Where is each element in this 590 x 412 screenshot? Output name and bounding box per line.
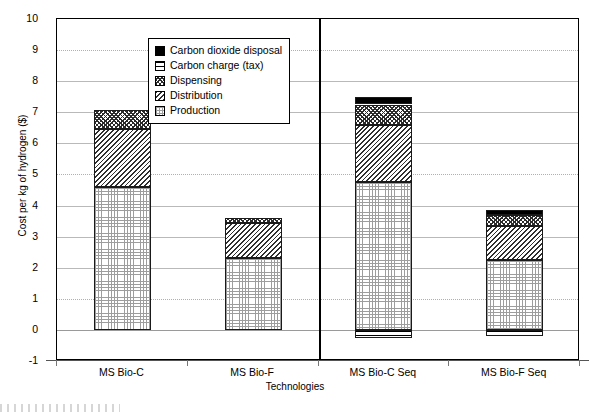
legend-label: Dispensing (170, 75, 222, 86)
x-tick-label: MS Bio-F Seq (444, 366, 584, 378)
y-axis-tick-labels: 109876543210-1 (8, 0, 38, 412)
bar-segment (94, 129, 151, 187)
bar-segment (486, 260, 543, 330)
y-tick-label: 3 (12, 231, 38, 241)
legend-swatch (155, 76, 165, 86)
bar-group (94, 19, 151, 359)
legend-item: Carbon dioxide disposal (155, 43, 282, 58)
y-tick-label: 2 (12, 262, 38, 272)
legend-swatch (155, 61, 165, 71)
legend-swatch (155, 91, 165, 101)
y-tick-label: 9 (12, 44, 38, 54)
bar-segment (355, 182, 412, 330)
legend-item: Distribution (155, 88, 282, 103)
bar-segment (486, 210, 543, 215)
stacked-bar-chart: Cost per kg of hydrogen ($) 109876543210… (0, 0, 590, 412)
bar-segment (486, 215, 543, 226)
bar-segment (225, 258, 282, 330)
y-tick-label: 5 (12, 168, 38, 178)
bar-segment (355, 125, 412, 183)
x-tick-label: MS Bio-F (182, 366, 322, 378)
y-tick-label: 7 (12, 106, 38, 116)
x-tick-label: MS Bio-C Seq (313, 366, 453, 378)
legend-label: Carbon charge (tax) (170, 60, 263, 71)
bar-segment (355, 105, 412, 125)
bar-segment (225, 223, 282, 259)
y-tick-label: 10 (12, 13, 38, 23)
y-tick-label: 0 (12, 324, 38, 334)
legend-item: Carbon charge (tax) (155, 58, 282, 73)
x-axis-title: Technologies (0, 381, 590, 392)
y-tick-label: -1 (12, 355, 38, 365)
bar-segment (355, 330, 412, 338)
y-tick-label: 6 (12, 137, 38, 147)
bar-group (486, 19, 543, 359)
plot-area (56, 18, 579, 360)
legend: Carbon dioxide disposalCarbon charge (ta… (148, 38, 290, 124)
bar-segment (355, 97, 412, 105)
legend-label: Carbon dioxide disposal (170, 45, 282, 56)
legend-swatch (155, 106, 165, 116)
scan-artifact (0, 404, 120, 412)
x-tick-label: MS Bio-C (51, 366, 191, 378)
bar-segment (225, 218, 282, 223)
legend-label: Distribution (170, 90, 223, 101)
group-divider (319, 19, 321, 359)
y-tick-label: 4 (12, 200, 38, 210)
y-tick-label: 1 (12, 293, 38, 303)
bar-group (355, 19, 412, 359)
legend-item: Production (155, 103, 282, 118)
bar-segment (94, 187, 151, 330)
legend-swatch (155, 46, 165, 56)
bar-segment (486, 226, 543, 260)
bar-segment (486, 330, 543, 336)
bar-segment (94, 110, 151, 130)
legend-item: Dispensing (155, 73, 282, 88)
legend-label: Production (170, 105, 220, 116)
y-tick-label: 8 (12, 75, 38, 85)
